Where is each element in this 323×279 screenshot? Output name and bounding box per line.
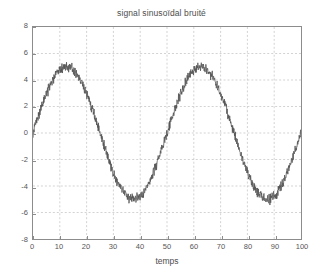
x-axis-tick-labels: 0102030405060708090100 (32, 243, 302, 255)
y-tick-label: -4 (2, 183, 28, 191)
x-tick-label: 20 (72, 243, 100, 251)
y-tick-mark (33, 54, 36, 55)
x-tick-mark (276, 236, 277, 239)
x-tick-label: 100 (288, 243, 316, 251)
x-tick-mark (249, 236, 250, 239)
y-tick-label: 8 (2, 22, 28, 30)
x-tick-label: 40 (126, 243, 154, 251)
x-tick-mark (114, 236, 115, 239)
x-tick-label: 80 (234, 243, 262, 251)
y-tick-mark (33, 214, 36, 215)
x-tick-label: 10 (45, 243, 73, 251)
y-tick-mark (33, 27, 36, 28)
x-tick-mark (60, 236, 61, 239)
y-tick-label: 4 (2, 76, 28, 84)
x-tick-label: 60 (180, 243, 208, 251)
x-tick-mark (87, 236, 88, 239)
y-tick-mark (33, 81, 36, 82)
y-tick-label: -2 (2, 156, 28, 164)
x-tick-mark (168, 236, 169, 239)
y-tick-mark (33, 161, 36, 162)
y-tick-mark (33, 188, 36, 189)
y-axis-tick-labels: 86420-2-4-6-8 (0, 26, 28, 240)
y-tick-label: -6 (2, 209, 28, 217)
x-tick-label: 90 (261, 243, 289, 251)
x-tick-label: 70 (207, 243, 235, 251)
x-axis-label: temps (32, 256, 302, 267)
y-tick-label: 0 (2, 129, 28, 137)
y-tick-label: 2 (2, 102, 28, 110)
plot-area (32, 26, 302, 240)
x-tick-mark (141, 236, 142, 239)
y-tick-label: 6 (2, 49, 28, 57)
y-tick-mark (33, 134, 36, 135)
x-tick-mark (195, 236, 196, 239)
x-tick-label: 30 (99, 243, 127, 251)
x-tick-mark (222, 236, 223, 239)
x-tick-label: 50 (153, 243, 181, 251)
x-tick-mark (33, 236, 34, 239)
y-tick-mark (33, 107, 36, 108)
x-tick-label: 0 (18, 243, 46, 251)
chart-title: signal sinusoïdal bruité (0, 8, 323, 19)
signal-trace (33, 27, 301, 239)
figure-canvas: signal sinusoïdal bruité 86420-2-4-6-8 0… (0, 0, 323, 279)
